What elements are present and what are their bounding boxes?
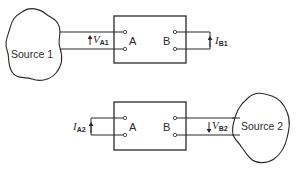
source-2-label: Source 2 — [241, 120, 283, 132]
terminal-b-lower — [173, 47, 176, 50]
port-a-label: A — [129, 121, 137, 133]
short-circuit-a — [91, 118, 123, 135]
current-label-ia2: IA2 — [72, 120, 86, 133]
top-circuit: Source 1 VA1 A B IB1 — [6, 9, 228, 81]
source-1-blob — [6, 9, 62, 81]
terminal-b-lower — [173, 133, 176, 136]
source-1-label: Source 1 — [11, 48, 53, 60]
port-b-label: B — [163, 35, 170, 47]
bottom-circuit: IA2 A B VB2 Source 2 — [72, 93, 289, 162]
two-port-box-bottom — [114, 102, 186, 150]
voltage-label-va1: VA1 — [93, 33, 109, 46]
reciprocity-diagram: Source 1 VA1 A B IB1 IA2 A B — [0, 0, 300, 171]
terminal-a-lower — [123, 133, 126, 136]
current-label-ib1: IB1 — [214, 34, 228, 47]
two-port-box-top — [114, 16, 186, 63]
terminal-a-lower — [123, 47, 126, 50]
terminal-a-upper — [123, 116, 126, 119]
short-circuit-b — [177, 32, 210, 49]
terminal-b-upper — [173, 116, 176, 119]
terminal-b-upper — [173, 30, 176, 33]
voltage-label-vb2: VB2 — [212, 119, 228, 132]
terminal-a-upper — [123, 30, 126, 33]
port-a-label: A — [129, 35, 137, 47]
port-b-label: B — [163, 121, 170, 133]
